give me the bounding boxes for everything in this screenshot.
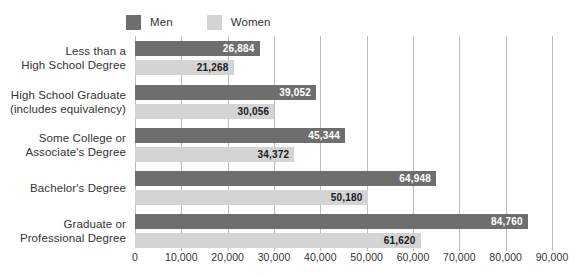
bar-row-men: 39,052 bbox=[135, 85, 552, 100]
bar-value-women: 61,620 bbox=[135, 233, 416, 248]
category-label-text: Graduate orProfessional Degree bbox=[0, 217, 135, 245]
bar-row-men: 64,948 bbox=[135, 171, 552, 186]
bar-value-women: 34,372 bbox=[135, 147, 289, 162]
bar-value-men: 39,052 bbox=[135, 85, 311, 100]
plot-area: 26,88421,26839,05230,05645,34434,37264,9… bbox=[135, 36, 552, 245]
category-label-line: Some College or bbox=[0, 131, 126, 145]
category-label-line: Less than a bbox=[0, 44, 126, 58]
category-label-line: Bachelor's Degree bbox=[0, 181, 126, 195]
legend-label-women: Women bbox=[231, 16, 271, 28]
category-label: Less than aHigh School Degree bbox=[0, 44, 135, 72]
category-label-text: Some College orAssociate's Degree bbox=[0, 131, 135, 159]
category-label-line: Graduate or bbox=[0, 217, 126, 231]
bar-row-men: 84,760 bbox=[135, 214, 552, 229]
category-label: High School Graduate(includes equivalenc… bbox=[0, 88, 135, 116]
category-label: Some College orAssociate's Degree bbox=[0, 131, 135, 159]
bar-value-men: 84,760 bbox=[135, 214, 523, 229]
bar-value-men: 45,344 bbox=[135, 128, 340, 143]
bar-chart: Men Women 26,88421,26839,05230,05645,344… bbox=[0, 0, 588, 277]
bar-value-men: 64,948 bbox=[135, 171, 431, 186]
bar-value-women: 50,180 bbox=[135, 190, 363, 205]
bar-row-men: 26,884 bbox=[135, 41, 552, 56]
bar-value-men: 26,884 bbox=[135, 41, 255, 56]
category-label-text: Bachelor's Degree bbox=[0, 181, 135, 195]
bar-value-women: 21,268 bbox=[135, 60, 229, 75]
category-label-line: Associate's Degree bbox=[0, 145, 126, 159]
gridline bbox=[552, 36, 553, 251]
bar-row-men: 45,344 bbox=[135, 128, 552, 143]
bar-row-women: 21,268 bbox=[135, 60, 552, 75]
category-label-line: (includes equivalency) bbox=[0, 102, 126, 116]
category-label: Graduate orProfessional Degree bbox=[0, 217, 135, 245]
x-tick-label: 90,000 bbox=[522, 251, 582, 263]
bar-row-women: 30,056 bbox=[135, 104, 552, 119]
legend-item-women[interactable]: Women bbox=[207, 15, 271, 30]
bar-row-women: 61,620 bbox=[135, 233, 552, 248]
bar-value-women: 30,056 bbox=[135, 104, 269, 119]
category-label-line: High School Degree bbox=[0, 58, 126, 72]
bar-row-women: 50,180 bbox=[135, 190, 552, 205]
chart-legend: Men Women bbox=[126, 12, 271, 32]
legend-item-men[interactable]: Men bbox=[126, 15, 173, 30]
category-label-text: High School Graduate(includes equivalenc… bbox=[0, 88, 135, 116]
category-label: Bachelor's Degree bbox=[0, 181, 135, 195]
legend-label-men: Men bbox=[150, 16, 173, 28]
legend-swatch-women bbox=[207, 15, 222, 30]
legend-swatch-men bbox=[126, 15, 141, 30]
category-label-line: High School Graduate bbox=[0, 88, 126, 102]
category-label-line: Professional Degree bbox=[0, 231, 126, 245]
category-label-text: Less than aHigh School Degree bbox=[0, 44, 135, 72]
bar-row-women: 34,372 bbox=[135, 147, 552, 162]
